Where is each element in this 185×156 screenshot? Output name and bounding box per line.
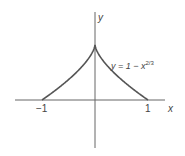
x-tick-label-neg1: −1	[36, 103, 48, 114]
equation-main: y = 1 − x	[110, 61, 146, 71]
equation-exponent: 2/3	[146, 60, 155, 66]
y-axis-label: y	[97, 12, 104, 23]
x-axis-label: x	[167, 103, 174, 114]
chart-canvas: −1 1 x y y = 1 − x2/3	[0, 0, 185, 156]
equation-label: y = 1 − x2/3	[110, 60, 155, 71]
x-tick-label-1: 1	[145, 103, 151, 114]
